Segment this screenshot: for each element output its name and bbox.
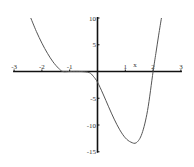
- curve-series: [31, 18, 162, 143]
- x-tick-label: -2: [39, 63, 45, 71]
- x-tick-label: 3: [179, 63, 183, 71]
- x-axis-label: x: [133, 61, 137, 69]
- y-tick-label: 10: [89, 15, 97, 23]
- y-tick-label: 5: [93, 41, 97, 49]
- function-curve: [31, 18, 162, 143]
- y-tick-label: -15: [87, 148, 97, 156]
- y-tick-label: -5: [90, 95, 96, 103]
- function-plot: -3-2-1123 105-5-10-15 x: [0, 0, 194, 167]
- x-tick-label: -3: [11, 63, 17, 71]
- y-tick-label: -10: [87, 122, 97, 130]
- x-tick-label: 1: [124, 63, 128, 71]
- x-tick-label: -1: [67, 63, 73, 71]
